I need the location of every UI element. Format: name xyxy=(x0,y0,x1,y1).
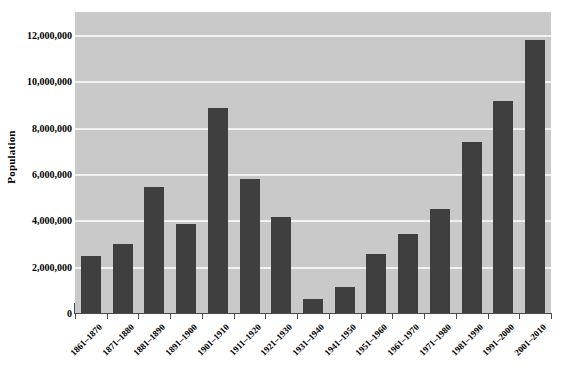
x-axis-tick xyxy=(392,313,393,319)
x-axis-tick-label: 1861–1870 xyxy=(68,322,104,358)
x-axis-tick xyxy=(138,313,139,319)
x-axis-tick-label: 1931–1940 xyxy=(290,322,326,358)
x-axis-tick-label: 1881–1890 xyxy=(132,322,168,358)
x-axis-tick-label: 1971–1980 xyxy=(417,322,453,358)
x-axis-tick-label: 1941–1950 xyxy=(322,322,358,358)
x-axis-tick-labels: 1861–18701871–18801881–18901891–19001901… xyxy=(0,0,564,368)
x-axis-tick xyxy=(297,313,298,319)
x-axis-tick xyxy=(456,313,457,319)
x-axis-tick-label: 1911–1920 xyxy=(227,322,262,357)
x-axis-tick-label: 1871–1880 xyxy=(100,322,136,358)
x-axis-tick-label: 1981–1990 xyxy=(449,322,485,358)
x-axis-tick-label: 1991–2000 xyxy=(481,322,517,358)
x-axis-tick xyxy=(107,313,108,319)
x-axis-tick xyxy=(488,313,489,319)
x-axis-tick xyxy=(234,313,235,319)
x-axis-tick xyxy=(170,313,171,319)
x-axis-tick xyxy=(202,313,203,319)
x-axis-tick-label: 1891–1900 xyxy=(163,322,199,358)
x-axis-tick xyxy=(265,313,266,319)
x-axis-tick xyxy=(424,313,425,319)
x-axis-tick xyxy=(361,313,362,319)
x-axis-tick-label: 2001–2010 xyxy=(512,322,548,358)
x-axis-tick xyxy=(551,313,552,319)
x-axis-tick-label: 1951–1960 xyxy=(354,322,390,358)
population-bar-chart: Population 02,000,0004,000,0006,000,0008… xyxy=(0,0,564,368)
x-axis-tick-label: 1901–1910 xyxy=(195,322,231,358)
x-axis-tick xyxy=(75,313,76,319)
x-axis-tick xyxy=(329,313,330,319)
x-axis-tick-label: 1961–1970 xyxy=(386,322,422,358)
x-axis-tick-label: 1921–1930 xyxy=(259,322,295,358)
x-axis-tick xyxy=(519,313,520,319)
